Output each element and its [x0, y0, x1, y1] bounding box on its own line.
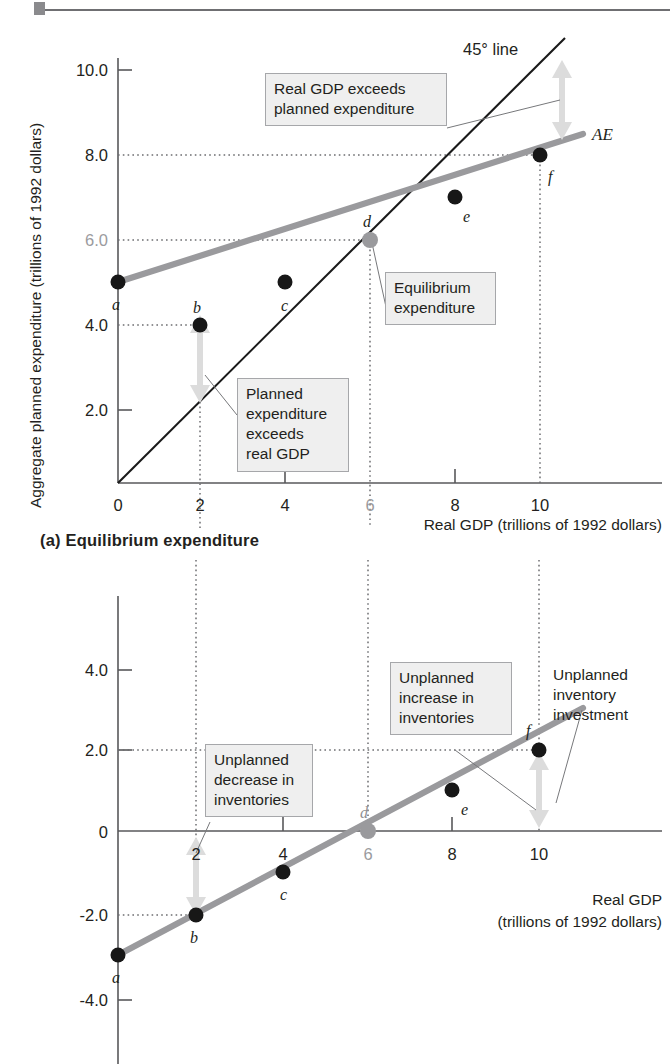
panel-a-x-axis-title: Real GDP (trillions of 1992 dollars) [424, 516, 662, 533]
panel-a-xlabel-4: 4 [280, 496, 289, 514]
point-a [111, 948, 126, 963]
ae-series-label: AE [591, 125, 613, 144]
panel-a-xlabel-8: 8 [450, 496, 459, 514]
point-b [193, 318, 208, 333]
panel-b-ylabel-2: 2.0 [85, 741, 108, 759]
panel-b-xlabel-2: 2 [191, 845, 200, 863]
panel-b-ylabel-neg4: -4.0 [80, 991, 108, 1009]
forty-five-degree-label: 45° line [463, 40, 518, 58]
point-label-d: d [363, 213, 372, 230]
point-e [445, 783, 460, 798]
header-rule-cap [34, 2, 45, 15]
point-d-equilibrium [360, 823, 376, 839]
point-label-f: f [548, 168, 555, 186]
point-a [111, 275, 126, 290]
point-label-b: b [193, 299, 201, 316]
gap-arrow-top [552, 60, 572, 140]
leader-real-gdp-exceeds [447, 100, 560, 128]
text-unplanned-inventory-investment: Unplannedinventoryinvestment [553, 665, 669, 725]
point-f [533, 148, 548, 163]
callout-real-gdp-exceeds: Real GDP exceedsplanned expenditure [265, 73, 447, 126]
point-label-d: d [360, 804, 369, 821]
panel-b-ylabel-neg2: -2.0 [80, 906, 108, 924]
panel-b-xlabel-8: 8 [447, 845, 456, 863]
point-b [189, 908, 204, 923]
point-e [448, 190, 463, 205]
point-c [276, 865, 291, 880]
panel-a-ylabel-6: 6.0 [85, 231, 108, 249]
panel-b-xlabel-10: 10 [530, 845, 548, 863]
panel-b-ylabel-4: 4.0 [85, 661, 108, 679]
panel-b-unplanned-inventory-change: a b c d e f 4.0 2.0 0 -2.0 -4.0 2 4 6 8 … [0, 560, 670, 1064]
ae-line [118, 134, 583, 282]
panel-a-xlabel-6: 6 [365, 496, 374, 514]
panel-a-caption: (a) Equilibrium expenditure [40, 531, 259, 550]
panel-a-xlabel-0: 0 [113, 496, 122, 514]
panel-a-equilibrium-expenditure: a b c d e f AE 45° line 10.0 8.0 6.0 4.0… [0, 30, 670, 530]
panel-b-xlabel-4: 4 [278, 845, 287, 863]
point-label-b: b [190, 929, 198, 946]
gap-arrow-increase [529, 752, 549, 828]
panel-a-ylabel-2: 2.0 [85, 401, 108, 419]
point-label-e: e [463, 208, 470, 225]
panel-b-x-axis-title-line2: (trillions of 1992 dollars) [497, 913, 662, 930]
point-d-equilibrium [362, 232, 378, 248]
callout-unplanned-decrease: Unplanneddecrease ininventories [205, 744, 313, 817]
callout-planned-exceeds: Plannedexpenditureexceedsreal GDP [237, 378, 349, 472]
panel-a-ylabel-4: 4.0 [85, 316, 108, 334]
point-label-c: c [281, 297, 288, 314]
callout-unplanned-increase: Unplannedincrease ininventories [390, 662, 512, 735]
point-label-c: c [280, 886, 287, 903]
callout-equilibrium-expenditure: Equilibriumexpenditure [385, 272, 496, 325]
point-label-a: a [112, 296, 120, 313]
point-f [532, 743, 547, 758]
point-label-e: e [461, 801, 468, 818]
panel-a-xlabel-2: 2 [195, 496, 204, 514]
leader-equilibrium [372, 243, 386, 307]
panel-a-y-axis-title: Aggregate planned expenditure (trillions… [27, 123, 45, 508]
panel-b-ylabel-0: 0 [99, 823, 108, 841]
panel-a-ylabel-8: 8.0 [85, 146, 108, 164]
panel-b-xlabel-6: 6 [363, 845, 372, 863]
panel-a-xlabel-10: 10 [531, 496, 549, 514]
figure-page: a b c d e f AE 45° line 10.0 8.0 6.0 4.0… [0, 0, 670, 1064]
panel-b-chart: a b c d e f 4.0 2.0 0 -2.0 -4.0 2 4 6 8 … [0, 560, 670, 1064]
header-rule [34, 9, 670, 11]
point-label-a: a [112, 969, 120, 986]
panel-a-ylabel-10: 10.0 [76, 61, 108, 79]
point-c [278, 275, 293, 290]
panel-b-x-axis-title-line1: Real GDP [592, 891, 662, 908]
